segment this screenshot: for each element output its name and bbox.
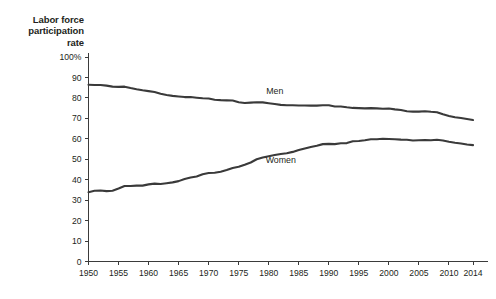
chart-plot-area: 0102030405060708090100% 1950195519601965… — [0, 0, 496, 299]
x-tick-label: 1980 — [259, 268, 278, 278]
y-tick-label: 70 — [72, 113, 82, 123]
y-tick-label: 0 — [77, 257, 82, 267]
x-tick-label: 1975 — [229, 268, 248, 278]
x-axis-ticks: 1950195519601965197019751980198519901995… — [79, 262, 483, 278]
y-tick-label: 10 — [72, 236, 82, 246]
x-tick-label: 1950 — [79, 268, 98, 278]
series-line-women — [89, 139, 474, 192]
y-tick-label: 30 — [72, 195, 82, 205]
labor-force-participation-chart: Labor force participation rate 010203040… — [0, 0, 496, 299]
x-tick-label: 1965 — [169, 268, 188, 278]
y-axis-ticks: 0102030405060708090100% — [60, 52, 89, 267]
x-tick-label: 1970 — [199, 268, 218, 278]
series-label-men: Men — [266, 86, 283, 96]
y-tick-label: 100% — [60, 52, 82, 62]
series-label-women: Women — [266, 155, 296, 165]
x-tick-label: 1985 — [289, 268, 308, 278]
x-tick-label: 1960 — [139, 268, 158, 278]
x-tick-label: 2000 — [379, 268, 398, 278]
y-tick-label: 90 — [72, 73, 82, 83]
x-tick-label: 1990 — [319, 268, 338, 278]
y-tick-label: 50 — [72, 154, 82, 164]
y-tick-label: 40 — [72, 175, 82, 185]
x-tick-label: 1955 — [109, 268, 128, 278]
y-tick-label: 80 — [72, 93, 82, 103]
x-tick-label: 2010 — [439, 268, 458, 278]
x-tick-label: 1995 — [349, 268, 368, 278]
y-tick-label: 60 — [72, 134, 82, 144]
x-tick-label: 2014 — [463, 268, 482, 278]
x-tick-label: 2005 — [409, 268, 428, 278]
y-tick-label: 20 — [72, 216, 82, 226]
data-series — [89, 85, 474, 192]
